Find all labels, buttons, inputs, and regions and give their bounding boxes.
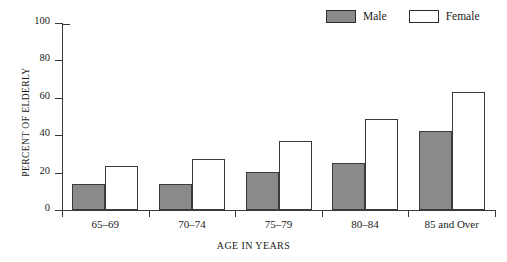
bar-female: [365, 119, 398, 210]
legend-entry-female: Female: [409, 10, 480, 23]
x-axis-category-label: 85 and Over: [425, 219, 479, 230]
y-axis-tick-label: 100: [34, 16, 50, 27]
y-axis-tick: 60: [55, 98, 63, 99]
x-axis-category-label: 70–74: [178, 219, 206, 230]
bar-chart: Male Female PERCENT OF ELDERLY 020406080…: [0, 0, 507, 262]
bar-male: [159, 184, 192, 210]
y-axis-tick: 40: [55, 135, 63, 136]
legend-swatch-female-icon: [409, 10, 439, 23]
x-axis-line: [62, 210, 495, 211]
y-axis-tick: 20: [55, 173, 63, 174]
y-axis-tick-label: 40: [40, 128, 51, 139]
bar-female: [279, 141, 312, 210]
legend-swatch-male-icon: [326, 10, 356, 23]
x-axis-tick: [149, 210, 150, 217]
x-axis-tick: [322, 210, 323, 217]
bar-male: [419, 131, 452, 210]
legend-label-female: Female: [446, 11, 480, 23]
plot-area: 020406080100: [62, 24, 495, 211]
chart-legend: Male Female: [326, 10, 480, 23]
legend-entry-male: Male: [326, 10, 387, 23]
x-axis-tick: [495, 210, 496, 217]
y-axis-tick: 100: [55, 23, 63, 24]
y-axis-tick-label: 60: [40, 91, 51, 102]
x-axis-title: AGE IN YEARS: [0, 240, 507, 251]
bar-female: [192, 159, 225, 210]
bar-male: [332, 163, 365, 210]
y-axis-top-cap: [62, 24, 70, 25]
y-axis-line: [62, 24, 63, 211]
y-axis-title: PERCENT OF ELDERLY: [21, 42, 31, 202]
y-axis-tick-label: 80: [40, 53, 51, 64]
y-axis-tick: 80: [55, 60, 63, 61]
bar-female: [105, 166, 138, 210]
bar-male: [246, 172, 279, 210]
bar-female: [452, 92, 485, 210]
bar-male: [72, 184, 105, 210]
x-axis-category-label: 65–69: [92, 219, 120, 230]
x-axis-category-label: 75–79: [265, 219, 293, 230]
legend-label-male: Male: [363, 11, 387, 23]
x-axis-tick: [408, 210, 409, 217]
x-axis-category-label: 80–84: [351, 219, 379, 230]
y-axis-tick-label: 20: [40, 166, 51, 177]
x-axis-tick: [235, 210, 236, 217]
x-axis-tick: [62, 210, 63, 217]
y-axis-tick-label: 0: [45, 203, 50, 214]
